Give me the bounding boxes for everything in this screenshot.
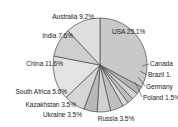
- pie-label-china: China 11.6%: [26, 60, 63, 67]
- pie-label-south-africa: South Africa 5.6%: [15, 88, 67, 95]
- pie-label-russia: Russia 3.5%: [98, 115, 135, 122]
- pie-label-poland: Poland 1.5%: [143, 94, 178, 101]
- pie-label-germany: Germany: [146, 83, 174, 91]
- pie-chart-svg: USA 25.1% Canada Brazil 1. Germany Polan…: [0, 0, 178, 127]
- pie-label-kazakhstan: Kazakhstan 3.5%: [25, 101, 76, 108]
- pie-label-canada: Canada: [150, 60, 173, 67]
- chart-screenshot: USA 25.1% Canada Brazil 1. Germany Polan…: [0, 0, 178, 127]
- pie-label-ukraine: Ukraine 3.5%: [43, 111, 82, 118]
- pie-label-india: India 7.6%: [42, 32, 73, 39]
- pie-label-australia: Australia 9.2%: [52, 13, 94, 20]
- pie-label-usa: USA 25.1%: [112, 28, 145, 35]
- pie-chart-figure: USA 25.1% Canada Brazil 1. Germany Polan…: [0, 0, 178, 127]
- pie-label-brazil: Brazil 1.: [148, 71, 172, 78]
